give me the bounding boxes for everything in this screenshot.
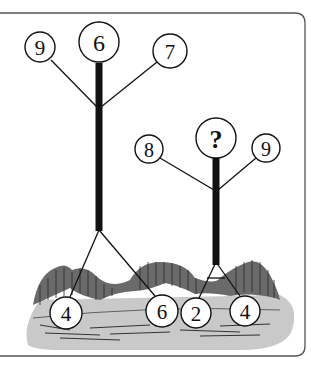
svg-text:9: 9 <box>35 36 46 60</box>
node-right-right: 9 <box>252 134 280 162</box>
node-right-top: ? <box>196 118 236 158</box>
svg-text:6: 6 <box>93 30 105 56</box>
node-right-bottom-right: 4 <box>230 296 260 326</box>
svg-text:2: 2 <box>191 302 202 326</box>
svg-text:9: 9 <box>261 138 271 160</box>
svg-text:8: 8 <box>144 139 154 161</box>
svg-text:6: 6 <box>157 300 168 324</box>
node-left-top: 6 <box>79 22 119 62</box>
svg-text:?: ? <box>210 125 223 154</box>
node-left-bottom-left: 4 <box>50 297 82 329</box>
node-left-right: 7 <box>153 34 187 68</box>
left-tree <box>51 60 157 297</box>
svg-text:4: 4 <box>240 300 251 324</box>
svg-text:7: 7 <box>165 40 176 64</box>
node-right-bottom-left: 2 <box>181 298 211 328</box>
number-tree-puzzle: 6 9 7 4 6 ? 8 9 2 4 <box>0 0 311 369</box>
node-right-left: 8 <box>135 135 163 163</box>
svg-text:4: 4 <box>61 302 72 326</box>
node-left-bottom-right: 6 <box>146 295 178 327</box>
node-left-left: 9 <box>25 32 55 62</box>
